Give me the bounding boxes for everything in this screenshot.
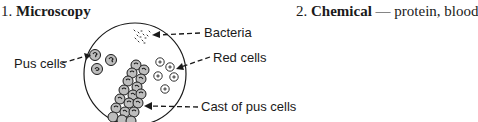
label-bacteria: Bacteria <box>204 25 252 40</box>
label-pus-cells: Pus cells <box>14 56 66 71</box>
red-cells <box>154 58 178 93</box>
arrowhead-icon <box>176 63 184 70</box>
bacteria-leader <box>158 33 200 35</box>
pus-cells-loose <box>90 50 117 75</box>
cast-of-pus-cells <box>108 60 149 122</box>
arrowhead-icon <box>152 31 160 38</box>
bacteria-cluster <box>134 30 150 43</box>
label-cast-of-pus-cells: Cast of pus cells <box>201 99 296 114</box>
arrowhead-icon <box>144 102 152 110</box>
label-red-cells: Red cells <box>213 50 266 65</box>
red-cells-leader <box>181 57 210 67</box>
